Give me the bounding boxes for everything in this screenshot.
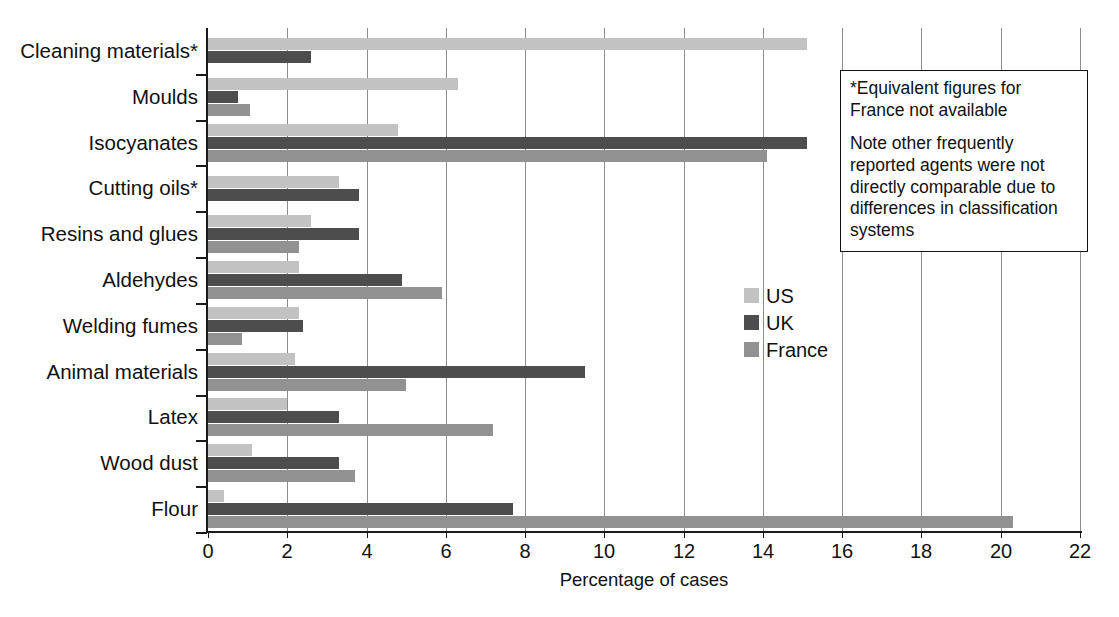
bar-uk [208,320,303,332]
category-label: Resins and glues [0,222,198,246]
bar-us [208,307,299,319]
legend-item-uk: UK [744,309,828,336]
x-axis-line [206,531,1082,533]
y-tick-mark [196,165,207,167]
legend-item-france: France [744,336,828,363]
y-tick-mark [196,395,207,397]
bar-us [208,444,252,456]
bar-uk [208,51,311,63]
category-label: Flour [0,497,198,521]
bar-us [208,78,458,90]
annotation-paragraph-1: *Equivalent figures for France not avail… [850,78,1078,121]
bar-uk [208,503,513,515]
bar-uk [208,274,402,286]
legend-swatch-icon [744,315,759,330]
bar-france [208,241,299,253]
x-tick-label: 18 [910,540,932,563]
category-label: Aldehydes [0,268,198,292]
y-tick-mark [196,486,207,488]
y-tick-mark [196,257,207,259]
bar-france [208,424,493,436]
legend: USUKFrance [744,282,828,363]
x-tick-label: 0 [202,540,213,563]
category-label: Welding fumes [0,314,198,338]
category-label: Wood dust [0,451,198,475]
y-tick-mark [196,440,207,442]
bar-france [208,104,250,116]
bar-france [208,470,355,482]
gridline [684,28,685,532]
bar-us [208,353,295,365]
bar-us [208,124,398,136]
legend-swatch-icon [744,288,759,303]
category-label: Moulds [0,85,198,109]
x-tick-label: 6 [440,540,451,563]
y-tick-mark [196,532,207,534]
bar-uk [208,411,339,423]
bar-france [208,379,406,391]
bar-us [208,398,287,410]
x-tick-label: 20 [990,540,1012,563]
bar-france [208,516,1013,528]
category-label: Cleaning materials* [0,39,198,63]
bar-us [208,176,339,188]
y-tick-mark [196,211,207,213]
x-tick-label: 8 [519,540,530,563]
x-tick-label: 12 [673,540,695,563]
gridline [446,28,447,532]
category-label: Animal materials [0,360,198,384]
y-tick-mark [196,74,207,76]
gridline [525,28,526,532]
legend-label: UK [766,313,794,333]
bar-uk [208,457,339,469]
bar-us [208,38,807,50]
bar-uk [208,228,359,240]
bar-us [208,261,299,273]
x-tick-label: 4 [361,540,372,563]
x-tick-label: 22 [1069,540,1091,563]
y-tick-mark [196,303,207,305]
x-tick-label: 2 [281,540,292,563]
bar-uk [208,91,238,103]
bar-uk [208,137,807,149]
legend-swatch-icon [744,342,759,357]
x-tick-label: 10 [593,540,615,563]
bar-us [208,490,224,502]
annotation-box: *Equivalent figures for France not avail… [840,70,1088,252]
legend-item-us: US [744,282,828,309]
legend-label: France [766,340,828,360]
bar-uk [208,366,585,378]
y-tick-mark [196,349,207,351]
bar-chart: 0246810121416182022 Cleaning materials*M… [0,0,1119,617]
gridline [763,28,764,532]
bar-france [208,150,767,162]
y-tick-mark [196,120,207,122]
annotation-paragraph-2: Note other frequently reported agents we… [850,133,1078,241]
x-tick-label: 14 [752,540,774,563]
category-label: Latex [0,405,198,429]
bar-uk [208,189,359,201]
category-label: Cutting oils* [0,176,198,200]
legend-label: US [766,286,794,306]
bar-france [208,333,242,345]
bar-france [208,287,442,299]
gridline [604,28,605,532]
x-axis-title: Percentage of cases [208,569,1080,591]
x-tick-label: 16 [831,540,853,563]
category-label: Isocyanates [0,131,198,155]
bar-us [208,215,311,227]
